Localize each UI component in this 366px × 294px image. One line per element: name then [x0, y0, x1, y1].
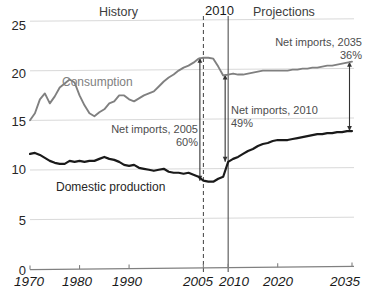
net-imports-2010-title: Net imports, 2010 [231, 104, 318, 117]
x-axis [30, 262, 354, 269]
consumption-series-label: Consumption [62, 75, 133, 89]
net-imports-2035-annotation: Net imports, 2035 36% [240, 36, 362, 62]
x-tick-2035: 2035 [330, 274, 360, 289]
net-imports-2005-title: Net imports, 2005 [88, 123, 198, 136]
y-tick-20: 20 [0, 66, 26, 81]
net-imports-2035-value: 36% [240, 49, 362, 62]
y-tick-10: 10 [0, 162, 26, 177]
x-tick-2010: 2010 [219, 274, 249, 289]
x-tick-2020: 2020 [263, 274, 293, 289]
energy-supply-chart: 25 20 15 10 5 0 1970 1980 1990 2005 2010… [0, 0, 366, 294]
x-tick-1980: 1980 [62, 274, 92, 289]
history-label: History [99, 5, 138, 19]
x-tick-2005: 2005 [183, 274, 213, 289]
x-tick-1970: 1970 [14, 274, 44, 289]
domestic-production-series-label: Domestic production [56, 180, 165, 194]
net-imports-2010-annotation: Net imports, 2010 49% [231, 104, 318, 130]
y-tick-15: 15 [0, 114, 26, 129]
year-marker-lines [203, 16, 228, 272]
net-imports-2005-value: 60% [88, 136, 198, 149]
divider-year-label: 2010 [205, 3, 234, 18]
y-tick-5: 5 [0, 213, 26, 228]
y-tick-25: 25 [0, 18, 26, 33]
projections-label: Projections [253, 5, 315, 19]
net-imports-2035-title: Net imports, 2035 [240, 36, 362, 49]
net-imports-2010-value: 49% [231, 117, 318, 130]
x-tick-1990: 1990 [112, 274, 142, 289]
net-imports-2005-annotation: Net imports, 2005 60% [88, 123, 198, 149]
